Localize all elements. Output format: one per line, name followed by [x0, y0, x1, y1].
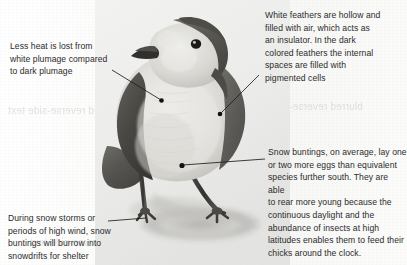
- annotation-line: continuous daylight and the: [268, 209, 407, 222]
- annotation-feather-structure: White feathers are hollow and filled wit…: [265, 9, 403, 85]
- annotation-line: buntings will burrow into: [8, 237, 128, 250]
- annotation-line: spaces are filled with: [265, 59, 403, 72]
- annotation-line: Snow buntings, on average, lay one: [268, 146, 407, 159]
- annotation-line: to rear more young because the: [268, 196, 407, 209]
- annotation-line: snowdrifts for shelter: [8, 250, 128, 263]
- annotation-line: species further south. They are able: [268, 171, 407, 196]
- annotation-clutch-size: Snow buntings, on average, lay one or tw…: [268, 146, 407, 259]
- annotation-line: or two more eggs than equivalent: [268, 159, 407, 172]
- annotation-line: white plumage compared: [10, 53, 135, 66]
- annotation-line: colored feathers the internal: [265, 47, 403, 60]
- annotation-line: During snow storms or: [8, 212, 128, 225]
- figure-page: blurred reverse-side text blurred revers…: [0, 0, 407, 265]
- annotation-line: Less heat is lost from: [10, 40, 135, 53]
- annotation-line: periods of high wind, snow: [8, 225, 128, 238]
- annotation-line: White feathers are hollow and: [265, 9, 403, 22]
- annotation-heat-loss: Less heat is lost from white plumage com…: [10, 40, 135, 78]
- annotation-snow-burrowing: During snow storms or periods of high wi…: [8, 212, 128, 262]
- annotation-line: an insulator. In the dark: [265, 34, 403, 47]
- annotation-line: latitudes enables them to feed their: [268, 234, 407, 247]
- annotation-line: filled with air, which acts as: [265, 22, 403, 35]
- annotation-line: to dark plumage: [10, 65, 135, 78]
- annotation-line: abundance of insects at high: [268, 222, 407, 235]
- annotation-line: chicks around the clock.: [268, 247, 407, 260]
- annotation-line: pigmented cells: [265, 72, 403, 85]
